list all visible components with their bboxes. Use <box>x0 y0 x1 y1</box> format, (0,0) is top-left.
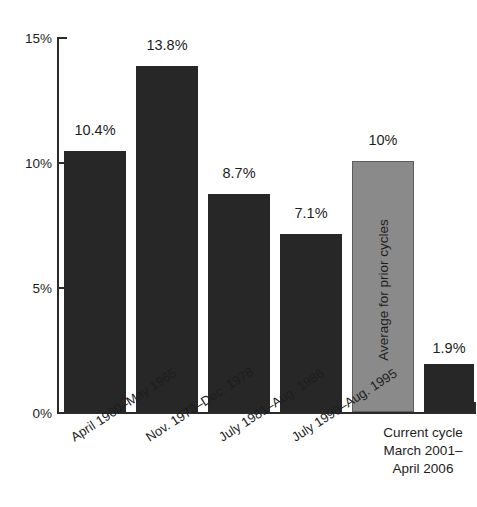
bar-5-inner-label: Average for prior cycles <box>376 219 391 361</box>
y-axis-label-5: 5% <box>32 281 52 296</box>
y-axis-label-0: 0% <box>32 406 52 421</box>
y-tick-15 <box>57 37 67 39</box>
category-label-6-line2: March 2001– <box>383 442 463 460</box>
bar-4-value: 7.1% <box>294 205 327 221</box>
category-label-6-line3: April 2006 <box>383 460 463 478</box>
y-axis-line <box>57 37 59 414</box>
bar-1 <box>64 151 126 412</box>
bar-5-value: 10% <box>368 132 397 148</box>
bar-2-value: 13.8% <box>146 37 187 53</box>
category-label-6-line1: Current cycle <box>383 424 463 442</box>
bar-3-value: 8.7% <box>222 165 255 181</box>
bar-2 <box>136 66 198 412</box>
y-axis-label-15: 15% <box>25 31 52 46</box>
bar-1-value: 10.4% <box>74 122 115 138</box>
x-axis-end-tick <box>474 402 476 414</box>
y-axis-label-10: 10% <box>25 156 52 171</box>
bar-6-value: 1.9% <box>432 340 465 356</box>
bar-6-current <box>424 364 474 412</box>
category-label-6: Current cycle March 2001– April 2006 <box>383 424 463 478</box>
bar-chart: 15% 10% 5% 0% 10.4% 13.8% 8.7% 7.1% 10% … <box>0 0 477 507</box>
